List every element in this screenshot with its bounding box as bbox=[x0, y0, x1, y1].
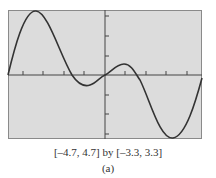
window-range-caption: [–4.7, 4.7] by [–3.3, 3.3] bbox=[0, 146, 216, 158]
figure-sublabel: (a) bbox=[0, 162, 216, 174]
